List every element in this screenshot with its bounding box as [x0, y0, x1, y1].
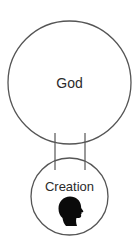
- god-creation-diagram: God Creation: [0, 0, 138, 245]
- human-head-silhouette-icon: [59, 197, 84, 227]
- god-node: God: [8, 21, 131, 144]
- creation-node: Creation: [31, 158, 108, 235]
- creation-label: Creation: [45, 179, 94, 194]
- god-label: God: [56, 75, 82, 91]
